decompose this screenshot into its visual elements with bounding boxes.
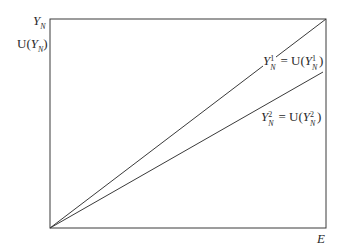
line-1-lower: [50, 66, 263, 228]
line-2: [50, 72, 323, 228]
x-axis-label: E: [317, 232, 325, 245]
y-axis-utility-label: U(YN): [17, 37, 48, 56]
line-1-label: Y1N = U(Y1N): [263, 54, 323, 67]
line-1-upper: [276, 19, 326, 57]
line-2-label: Y2N = U(Y2N): [261, 110, 321, 123]
diagram-canvas: [0, 0, 342, 249]
y-axis-top-label: YN: [33, 14, 46, 33]
